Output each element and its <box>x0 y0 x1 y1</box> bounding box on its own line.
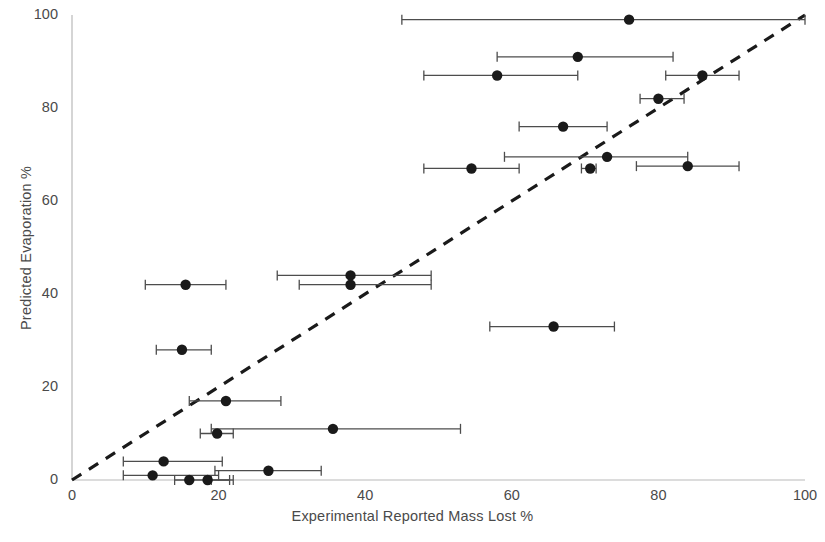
x-tick-label: 40 <box>345 487 385 503</box>
data-point <box>624 14 634 24</box>
data-point <box>263 466 273 476</box>
data-point <box>202 475 212 485</box>
data-points <box>147 14 707 485</box>
data-point <box>221 396 231 406</box>
plot-area <box>0 0 825 542</box>
data-point <box>345 270 355 280</box>
data-point <box>345 280 355 290</box>
error-bar <box>299 280 431 290</box>
parity-reference-line <box>72 15 805 480</box>
error-bar <box>189 396 281 406</box>
error-bar <box>123 456 222 466</box>
data-point <box>697 70 707 80</box>
scatter-chart-figure: 020406080100 020406080100 Experimental R… <box>0 0 825 542</box>
data-point <box>585 163 595 173</box>
data-point <box>602 152 612 162</box>
x-tick-label: 20 <box>199 487 239 503</box>
y-tick-label: 0 <box>14 471 58 487</box>
parity-line <box>72 15 805 480</box>
data-point <box>158 456 168 466</box>
error-bar <box>504 152 687 162</box>
data-point <box>212 428 222 438</box>
x-tick-label: 60 <box>492 487 532 503</box>
data-point <box>177 345 187 355</box>
x-tick-label: 100 <box>785 487 825 503</box>
data-point <box>328 424 338 434</box>
data-point <box>147 470 157 480</box>
data-point <box>548 321 558 331</box>
data-point <box>184 475 194 485</box>
error-bar <box>402 15 805 25</box>
y-axis-title: Predicted Evaporation % <box>18 166 34 330</box>
x-tick-label: 80 <box>638 487 678 503</box>
error-bar <box>497 52 673 62</box>
data-point <box>466 163 476 173</box>
x-axis-title: Experimental Reported Mass Lost % <box>0 508 825 524</box>
data-point <box>683 161 693 171</box>
data-point <box>653 94 663 104</box>
y-tick-label: 20 <box>14 378 58 394</box>
data-point <box>492 70 502 80</box>
x-tick-label: 0 <box>52 487 92 503</box>
data-point <box>558 121 568 131</box>
data-point <box>573 52 583 62</box>
y-tick-label: 100 <box>14 6 58 22</box>
y-tick-label: 80 <box>14 99 58 115</box>
error-bars <box>123 15 805 485</box>
data-point <box>180 280 190 290</box>
